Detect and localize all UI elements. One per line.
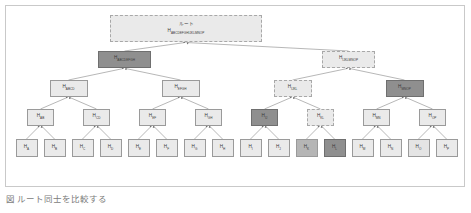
tree-node-leaf-f: HF bbox=[156, 139, 178, 157]
tree-node-leaf-g: HG bbox=[184, 139, 206, 157]
tree-edge bbox=[125, 43, 185, 51]
tree-edge bbox=[98, 127, 110, 139]
node-hash-label: HH bbox=[220, 145, 226, 151]
figure-caption: 図 ルート同士を比較する bbox=[6, 192, 456, 204]
merkle-tree-diagram: ルートHABCDEFGHIJKLMNOPHABCDEFGHHIJKLMNOPHA… bbox=[6, 6, 466, 188]
tree-node-leaf-d: HD bbox=[100, 139, 122, 157]
tree-edge bbox=[363, 127, 375, 139]
tree-edge bbox=[42, 127, 54, 139]
node-hash-label: HIJ bbox=[262, 114, 268, 120]
node-hash-label: HOP bbox=[429, 114, 437, 120]
tree-edge bbox=[210, 127, 222, 139]
tree-node-n-abcdefgh: HABCDEFGH bbox=[98, 51, 151, 68]
node-hash-label: HEF bbox=[149, 114, 156, 120]
tree-node-n-mnop: HMNOP bbox=[386, 80, 424, 97]
node-hash-label: HP bbox=[444, 145, 449, 151]
tree-node-root: ルートHABCDEFGHIJKLMNOP bbox=[110, 15, 262, 42]
node-hash-label: HMN bbox=[372, 114, 380, 120]
tree-edge bbox=[153, 98, 179, 109]
tree-edge bbox=[406, 98, 432, 109]
node-hash-label: HG bbox=[192, 145, 198, 151]
node-hash-label: HF bbox=[164, 145, 169, 151]
tree-edge bbox=[195, 127, 207, 139]
tree-edge bbox=[322, 127, 334, 139]
node-hash-label: HAB bbox=[37, 114, 45, 120]
tree-edge bbox=[419, 127, 431, 139]
tree-node-n-ab: HAB bbox=[27, 109, 54, 126]
figure-frame: ルートHABCDEFGHIJKLMNOPHABCDEFGHHIJKLMNOPHA… bbox=[5, 5, 465, 187]
tree-node-n-ef: HEF bbox=[139, 109, 166, 126]
node-hash-label: HC bbox=[80, 145, 86, 151]
tree-edge bbox=[378, 127, 390, 139]
tree-edge bbox=[377, 98, 403, 109]
tree-edge bbox=[307, 127, 319, 139]
node-hash-label: HMNOP bbox=[398, 85, 411, 91]
tree-node-leaf-j: HJ bbox=[268, 139, 290, 157]
node-hash-label: HABCDEFGHIJKLMNOP bbox=[168, 29, 205, 35]
node-hash-label: HABCD bbox=[62, 85, 74, 91]
node-hash-label: HI bbox=[248, 145, 252, 151]
tree-edge bbox=[293, 69, 347, 80]
figure-canvas: ルートHABCDEFGHIJKLMNOPHABCDEFGHHIJKLMNOPHA… bbox=[0, 0, 471, 213]
node-hash-label: HE bbox=[136, 145, 141, 151]
tree-node-leaf-m: HM bbox=[352, 139, 374, 157]
tree-node-n-kl: HKL bbox=[307, 109, 334, 126]
tree-node-leaf-h: HH bbox=[212, 139, 234, 157]
node-hash-label: HM bbox=[360, 145, 366, 151]
node-hash-label: HIJKL bbox=[288, 85, 298, 91]
tree-edge bbox=[434, 127, 446, 139]
node-hash-label: HK bbox=[304, 145, 309, 151]
tree-node-n-gh: HGH bbox=[195, 109, 222, 126]
tree-edge bbox=[265, 98, 291, 109]
node-hash-label: HEFGH bbox=[174, 85, 186, 91]
tree-node-leaf-c: HC bbox=[72, 139, 94, 157]
tree-edge bbox=[27, 127, 39, 139]
tree-node-leaf-i: HI bbox=[240, 139, 262, 157]
tree-node-leaf-a: HA bbox=[16, 139, 38, 157]
tree-node-n-ij: HIJ bbox=[251, 109, 278, 126]
tree-edge bbox=[154, 127, 166, 139]
tree-edge bbox=[188, 43, 349, 51]
node-hash-label: HJ bbox=[276, 145, 281, 151]
tree-node-leaf-p: HP bbox=[436, 139, 458, 157]
tree-node-leaf-e: HE bbox=[128, 139, 150, 157]
tree-node-n-cd: HCD bbox=[83, 109, 110, 126]
tree-edge bbox=[69, 69, 123, 80]
tree-edge bbox=[126, 69, 180, 80]
node-hash-label: HGH bbox=[204, 114, 212, 120]
tree-node-n-op: HOP bbox=[419, 109, 446, 126]
tree-node-n-mn: HMN bbox=[363, 109, 390, 126]
node-hash-label: HL bbox=[332, 145, 337, 151]
root-caption-label: ルート bbox=[179, 22, 194, 27]
tree-edge bbox=[83, 127, 95, 139]
tree-edge bbox=[294, 98, 320, 109]
tree-node-n-abcd: HABCD bbox=[50, 80, 88, 97]
tree-edge bbox=[41, 98, 67, 109]
tree-edge bbox=[266, 127, 278, 139]
tree-node-leaf-l: HL bbox=[324, 139, 346, 157]
node-hash-label: HABCDEFGH bbox=[114, 56, 135, 62]
tree-node-n-efgh: HEFGH bbox=[162, 80, 200, 97]
node-hash-label: HCD bbox=[93, 114, 101, 120]
node-hash-label: HO bbox=[416, 145, 422, 151]
tree-node-leaf-o: HO bbox=[408, 139, 430, 157]
tree-edge bbox=[251, 127, 263, 139]
node-hash-label: HKL bbox=[317, 114, 324, 120]
node-hash-label: HA bbox=[24, 145, 29, 151]
node-hash-label: HIJKLMNOP bbox=[339, 56, 358, 62]
tree-edge bbox=[182, 98, 208, 109]
tree-edge bbox=[70, 98, 96, 109]
node-hash-label: HB bbox=[52, 145, 57, 151]
tree-node-leaf-k: HK bbox=[296, 139, 318, 157]
tree-node-leaf-b: HB bbox=[44, 139, 66, 157]
tree-node-leaf-n: HN bbox=[380, 139, 402, 157]
tree-node-n-ijkl: HIJKL bbox=[274, 80, 312, 97]
tree-edge bbox=[139, 127, 151, 139]
tree-edge bbox=[350, 69, 404, 80]
node-hash-label: HD bbox=[108, 145, 114, 151]
node-hash-label: HN bbox=[388, 145, 394, 151]
tree-node-n-ijklmnop: HIJKLMNOP bbox=[322, 51, 375, 68]
